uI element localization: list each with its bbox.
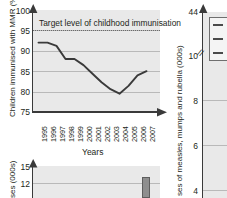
- bar-chart-plot-area: [33, 166, 160, 198]
- line-chart-y-axis-title: Children immunised with MMR (%): [8, 0, 17, 117]
- line-x-tick-1997: 1997: [59, 126, 67, 142]
- line-x-tick-1996: 1996: [50, 126, 58, 142]
- line-x-tick-2001: 2001: [95, 126, 103, 142]
- right-y-axis-arrow-icon: [199, 4, 208, 14]
- line-x-tick-2004: 2004: [122, 126, 130, 142]
- bar-item: [142, 177, 150, 198]
- right-y-tick-44: 44: [176, 8, 198, 17]
- line-x-tick-1999: 1999: [77, 126, 85, 142]
- line-x-tick-2006: 2006: [140, 126, 148, 142]
- line-x-tick-2003: 2003: [113, 126, 121, 142]
- mmr-uptake-line-series: [33, 10, 160, 112]
- line-x-tick-2000: 2000: [86, 126, 94, 142]
- line-x-tick-2005: 2005: [131, 126, 139, 142]
- legend-swatch-3: [213, 52, 223, 54]
- right-chart-y-axis: [202, 12, 203, 198]
- line-x-tick-1998: 1998: [68, 126, 76, 142]
- bar-chart-y-axis-title: ses (000s): [8, 161, 17, 198]
- bar-chart-y-axis: [32, 166, 33, 198]
- right-gridline-8: [203, 100, 227, 101]
- right-gridline-6: [203, 145, 227, 146]
- figure-panel: Target level of childhood immunisation 1…: [0, 0, 227, 198]
- line-chart-x-axis-title: Years: [82, 148, 103, 157]
- line-x-tick-2002: 2002: [104, 126, 112, 142]
- line-x-tick-1995: 1995: [41, 126, 49, 142]
- legend-swatch-2: [213, 38, 223, 40]
- right-gridline-4: [203, 190, 227, 191]
- line-x-tick-2007: 2007: [149, 126, 157, 142]
- right-chart-y-axis-title: ses of measles, mumps and rubella (000s): [175, 45, 184, 196]
- bar-gridline-12: [33, 183, 160, 184]
- legend-swatch-1: [213, 24, 223, 26]
